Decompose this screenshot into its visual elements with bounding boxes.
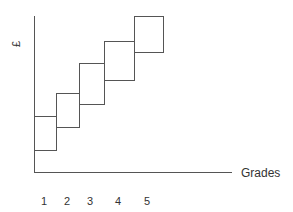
tick-label-5: 5 [144, 195, 150, 207]
x-axis [34, 172, 232, 173]
grade-2-box [56, 93, 80, 128]
tick-label-4: 4 [115, 195, 121, 207]
tick-label-3: 3 [87, 195, 93, 207]
grade-3-box [79, 63, 105, 105]
grade-1-box [34, 116, 57, 151]
grade-5-box [134, 16, 164, 53]
x-axis-label: Grades [241, 166, 280, 180]
tick-label-1: 1 [41, 195, 47, 207]
y-axis-label: £ [10, 41, 22, 47]
grade-4-box [104, 41, 135, 81]
tick-label-2: 2 [64, 195, 70, 207]
